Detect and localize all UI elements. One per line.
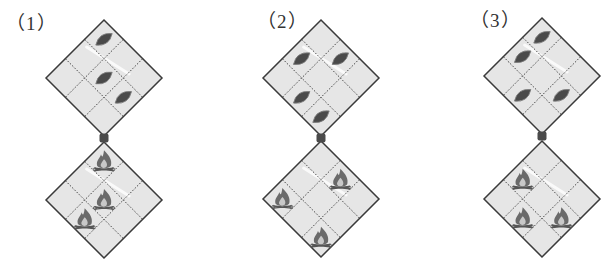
leaf-diamond <box>484 18 600 134</box>
fire-diamond <box>484 141 600 257</box>
diamond-board <box>484 141 600 257</box>
leaf-diamond <box>46 20 162 136</box>
connector-dot <box>538 132 547 141</box>
fire-diamond <box>46 142 162 258</box>
panel-1 <box>46 20 162 258</box>
connector-dot <box>317 134 326 143</box>
panel-2 <box>263 20 379 257</box>
diagram-canvas <box>0 0 610 262</box>
fire-diamond <box>263 141 379 257</box>
connector-dot <box>100 134 109 143</box>
leaf-diamond <box>263 20 379 136</box>
panel-3 <box>484 18 600 257</box>
